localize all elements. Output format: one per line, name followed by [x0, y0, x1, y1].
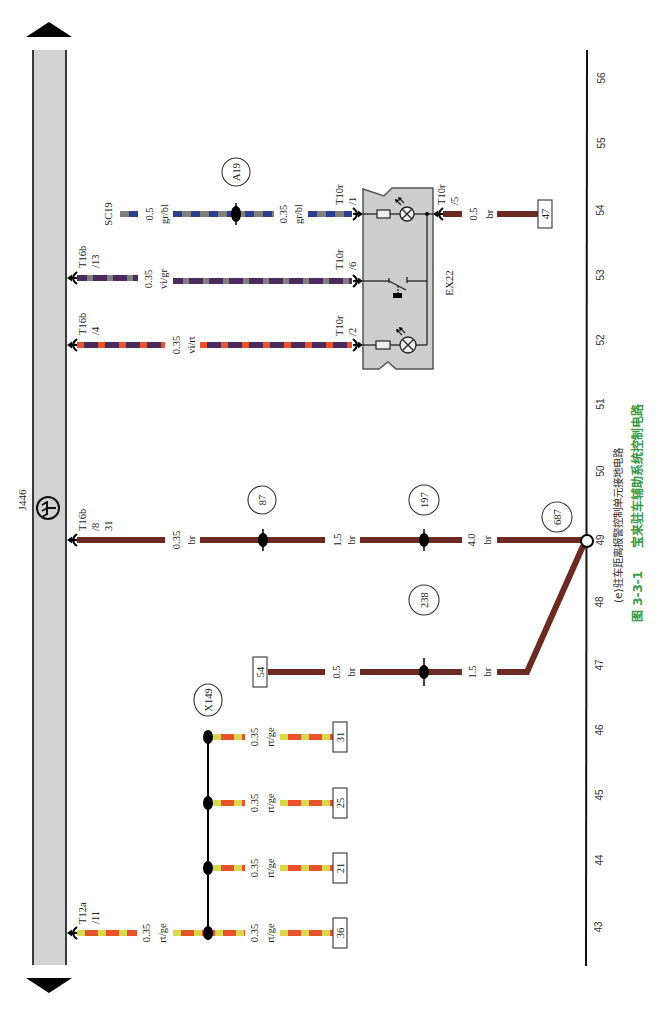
ground-rail-line	[586, 50, 587, 966]
wire-color-code: vi/gr	[158, 269, 169, 289]
wire-color-code: rt/ge	[265, 793, 276, 813]
wire-size: 0.35	[141, 924, 152, 942]
wire-color-code: br	[346, 667, 357, 676]
connector-label: T16b	[77, 246, 88, 268]
connector-label: T10r	[334, 184, 345, 205]
grid-number: 43	[593, 921, 604, 933]
wire-size: 4.0	[466, 533, 477, 546]
grid-number: 54	[595, 204, 606, 216]
ref-box-label: 21	[335, 863, 346, 874]
wire-color-code: rt/ge	[265, 923, 276, 943]
grid-number: 48	[594, 596, 605, 608]
grid-number: 51	[595, 398, 606, 410]
wire-size: 0.35	[249, 859, 260, 877]
ref-box-label: 31	[335, 732, 346, 743]
wire-size: 0.5	[331, 665, 342, 678]
wire-color-code: rt/ge	[265, 727, 276, 747]
continuation-down-arrow-icon	[26, 978, 72, 993]
connector-t16b-13-icon	[67, 272, 77, 284]
connector-label: T16b	[77, 509, 88, 531]
figure-subcaption: (e)驻车距离报警控制单元接地电路	[612, 447, 624, 603]
grid-number: 53	[595, 269, 606, 281]
grid-number: 46	[594, 724, 605, 736]
wire-size: 0.35	[278, 205, 289, 223]
grid-number: 44	[594, 854, 605, 866]
grid-number: 55	[596, 137, 607, 149]
ref-box-label: 47	[540, 209, 551, 220]
connector-label: T10r	[334, 315, 345, 336]
splice-label: 197	[419, 492, 430, 508]
connector-pin: /4	[90, 326, 101, 335]
wire-color-code: br	[482, 667, 493, 676]
splice-dot-197	[419, 529, 429, 551]
wire-color-code: br	[346, 535, 357, 544]
connector-pin: /8	[90, 523, 101, 531]
grid-number: 56	[596, 72, 607, 84]
grid-number: 49	[595, 534, 606, 546]
splice-dot-x149-3	[203, 861, 213, 875]
figure-title: 宝来驻车辅助系统控制电路	[630, 403, 645, 548]
connector-label: T16b	[77, 313, 88, 335]
connector-t10r-6-icon	[353, 275, 363, 287]
connector-pin: /11	[90, 911, 101, 924]
wire-size: 0.35	[249, 794, 260, 812]
connector-pin: /1	[347, 197, 358, 205]
figure-number: 图 3-3-1	[631, 571, 645, 622]
grid-number: 52	[595, 334, 606, 346]
wire-color-code: rt/ge	[265, 858, 276, 878]
wire-color-code: br	[482, 535, 493, 544]
control-unit-label: J446	[16, 489, 28, 510]
splice-dot-a19	[231, 203, 241, 225]
ground-point-label: 687	[552, 509, 563, 525]
wire-source-label: SC19	[103, 202, 114, 225]
wire-size: 0.35	[143, 270, 154, 288]
splice-label: A19	[231, 163, 242, 181]
wire-size: 0.35	[249, 728, 260, 746]
connector-t10r-2-icon	[353, 339, 363, 351]
connector-pin: /2	[347, 328, 358, 336]
connector-t12a-11-icon	[67, 927, 77, 939]
switch-module-label: EX22	[443, 270, 455, 296]
connector-t10r-5-icon	[433, 208, 443, 220]
connector-pin: /5	[449, 197, 460, 205]
wiring-diagram: J446 T16b /13 T16b /4 T16b /8 31 T12a /1…	[0, 0, 660, 1009]
connector-label: T10r	[334, 249, 345, 270]
continuation-up-arrow-icon	[26, 22, 72, 37]
connector-pin: /13	[90, 255, 101, 268]
resistor-icon	[377, 210, 390, 218]
switch-module-ex22	[363, 188, 433, 369]
ref-box-label: 54	[255, 666, 266, 677]
wire-color-code: vi/rt	[186, 336, 197, 354]
splice-label: 87	[257, 495, 268, 506]
grid-number: 45	[594, 789, 605, 801]
wire-color-code: br	[186, 535, 197, 544]
wire-color-code: gr/bl	[293, 204, 304, 224]
grid-number: 50	[595, 465, 606, 477]
ref-box-label: 25	[335, 798, 346, 809]
connector-t16b-4-icon	[67, 339, 77, 351]
connector-label: T10r	[436, 184, 447, 205]
wire-color-code: rt/ge	[157, 923, 168, 943]
lamp-icon	[400, 337, 416, 353]
connector-t10r-1-icon	[353, 208, 363, 220]
wire-color-code: br	[484, 209, 495, 218]
wire-size: 0.35	[249, 924, 260, 942]
splice-label: X149	[203, 688, 214, 711]
wire-size: 0.5	[468, 207, 479, 220]
ref-box-label: 36	[335, 928, 346, 939]
wire-size: 0.35	[171, 531, 182, 549]
lamp-icon	[400, 207, 414, 221]
connector-t16b-8-icon	[67, 534, 77, 546]
wire-color-code: gr/bl	[159, 204, 170, 224]
wire-size: 1.5	[332, 533, 343, 546]
connector-label: T12a	[77, 902, 88, 924]
grid-number: 47	[594, 659, 605, 671]
wire-size: 0.5	[144, 207, 155, 220]
wire-size: 0.35	[171, 336, 182, 354]
splice-dot-x149-1	[203, 730, 213, 744]
splice-dot-x149-2	[203, 796, 213, 810]
connector-pin: /6	[347, 262, 358, 270]
splice-dot-x149-4	[203, 926, 213, 940]
splice-dot-238	[419, 658, 429, 686]
connector-terminal: 31	[103, 521, 114, 532]
